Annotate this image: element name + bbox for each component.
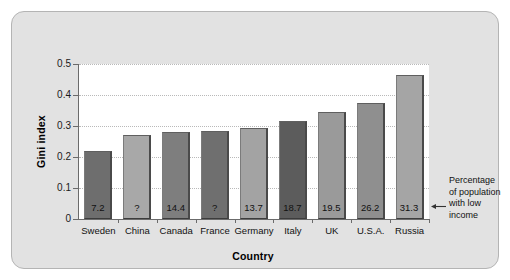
y-tick [73,188,79,189]
plot-area: 00.10.20.30.40.5 7.2?14.4?13.718.719.526… [78,64,429,220]
chart-panel: Gini index 00.10.20.30.40.5 7.2?14.4?13.… [11,11,499,269]
bar-value-label: 13.7 [244,203,263,219]
bar: 14.4 [162,132,190,219]
bar-value-label: 14.4 [166,203,185,219]
bar-value-label: ? [134,203,139,219]
y-tick [73,219,79,220]
x-tick-label: Russia [395,226,424,236]
x-tick [429,219,430,223]
y-tick [73,157,79,158]
x-tick-label: U.S.A. [357,226,384,236]
x-tick [351,219,352,223]
x-tick-label: Canada [160,226,193,236]
bar-value-label: 31.3 [400,203,419,219]
bar: ? [123,135,151,219]
bar-value-label: ? [212,203,217,219]
y-tick [73,126,79,127]
bar: 26.2 [357,103,385,219]
bar: 7.2 [84,151,112,219]
x-tick-label: Sweden [81,226,115,236]
bar: 13.7 [240,128,268,219]
bar: 31.3 [396,75,424,219]
x-tick [157,219,158,223]
bar-value-label: 7.2 [91,203,104,219]
y-tick-label: 0.1 [57,183,71,193]
x-tick [235,219,236,223]
bar-value-label: 19.5 [322,203,341,219]
gridline [79,95,429,96]
x-tick [312,219,313,223]
x-tick [273,219,274,223]
y-tick [73,64,79,65]
x-tick [390,219,391,223]
x-tick-label: UK [325,226,338,236]
bar-value-label: 26.2 [361,203,380,219]
y-tick-label: 0.5 [57,59,71,69]
y-tick-label: 0.2 [57,152,71,162]
x-tick [196,219,197,223]
gridline [79,64,429,65]
y-tick-label: 0.4 [57,90,71,100]
x-tick [118,219,119,223]
x-axis-title: Country [78,250,428,262]
y-axis-title: Gini index [34,64,48,219]
x-tick-label: France [200,226,230,236]
annotation-arrow-icon [431,203,447,210]
y-tick-label: 0 [65,214,71,224]
x-tick-label: China [125,226,150,236]
x-tick-label: Germany [234,226,273,236]
bar: ? [201,131,229,219]
y-tick [73,95,79,96]
x-tick-label: Italy [284,226,301,236]
bar-value-label: 18.7 [283,203,302,219]
bar: 18.7 [279,121,307,219]
annotation-text: Percentage of population with low income [449,175,501,221]
y-tick-label: 0.3 [57,121,71,131]
bar: 19.5 [318,112,346,219]
